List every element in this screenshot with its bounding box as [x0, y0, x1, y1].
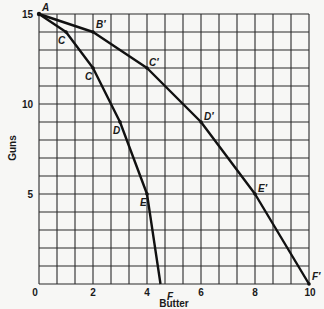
outer-ppf-curve [39, 14, 309, 284]
point-label-c2: C [85, 71, 93, 82]
x-tick-6: 6 [198, 287, 204, 298]
y-axis-label: Guns [7, 135, 18, 161]
point-label-d-prime: D′ [204, 111, 214, 122]
data-points [37, 12, 311, 286]
y-tick-10: 10 [22, 99, 34, 110]
x-tick-8: 8 [252, 287, 258, 298]
point-label-f-prime: F′ [312, 271, 321, 282]
point-label-e: E [140, 197, 147, 208]
production-possibilities-chart: A C C D E F B′ C′ D′ E′ F′ 15 10 5 0 2 4… [0, 0, 324, 309]
x-tick-4: 4 [144, 287, 150, 298]
point-label-d: D [113, 125, 120, 136]
y-tick-15: 15 [22, 9, 34, 20]
point-label-c1: C [58, 35, 66, 46]
point-label-e-prime: E′ [258, 183, 268, 194]
x-tick-10: 10 [304, 287, 316, 298]
point-label-c-prime: C′ [149, 57, 159, 68]
x-axis-label: Butter [159, 298, 189, 309]
point-label-a: A [41, 2, 49, 13]
x-tick-0: 0 [32, 287, 38, 298]
grid [39, 14, 309, 284]
point-label-b-prime: B′ [96, 19, 106, 30]
y-tick-5: 5 [27, 189, 33, 200]
x-tick-2: 2 [90, 287, 96, 298]
